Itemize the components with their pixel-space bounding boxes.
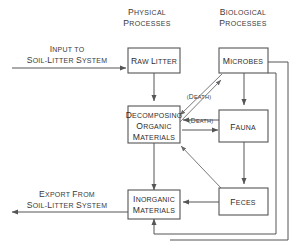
export-label-line2: SOIL-LITTER SYSTEM <box>27 200 108 210</box>
header-biological-line2: PROCESSES <box>219 18 266 28</box>
svg-text:RAW LITTER: RAW LITTER <box>131 56 177 66</box>
diagram-canvas: PHYSICAL PROCESSES BIOLOGICAL PROCESSES … <box>0 0 296 248</box>
feces-label: FECES <box>230 197 255 207</box>
svg-text:ORGANIC: ORGANIC <box>136 121 171 131</box>
inorganic-label-line2: MATERIALS <box>133 205 175 215</box>
node-microbes[interactable]: MICROBES <box>219 48 268 73</box>
decomposing-label-line1: DECOMPOSING <box>126 110 183 120</box>
decomposing-label-line2: ORGANIC <box>136 121 171 131</box>
header-physical-line2: PROCESSES <box>123 18 170 28</box>
svg-text:FAUNA: FAUNA <box>230 122 256 132</box>
svg-text:PROCESSES: PROCESSES <box>123 18 170 28</box>
raw-litter-label: RAW LITTER <box>131 56 177 66</box>
node-raw-litter[interactable]: RAW LITTER <box>128 48 180 73</box>
svg-text:INPUT TO: INPUT TO <box>50 44 85 54</box>
svg-text:FECES: FECES <box>230 197 255 207</box>
edge-label-death-fauna: (DEATH) <box>189 117 214 124</box>
node-fauna[interactable]: FAUNA <box>219 110 268 142</box>
svg-text:MATERIALS: MATERIALS <box>133 132 175 142</box>
edge-label-death-microbes: (DEATH) <box>187 93 212 100</box>
svg-text:PHYSICAL: PHYSICAL <box>128 7 166 17</box>
export-label-line1: EXPORT FROM <box>39 189 95 199</box>
microbes-label: MICROBES <box>223 56 263 66</box>
svg-text:BIOLOGICAL: BIOLOGICAL <box>220 7 266 17</box>
header-physical-line1: PHYSICAL <box>128 7 166 17</box>
input-label-line1: INPUT TO <box>50 44 85 54</box>
soil-litter-flow-diagram: PHYSICAL PROCESSES BIOLOGICAL PROCESSES … <box>0 0 296 248</box>
svg-text:MICROBES: MICROBES <box>223 56 263 66</box>
edge-feces-to-decomposing <box>181 146 221 188</box>
header-biological-line1: BIOLOGICAL <box>220 7 266 17</box>
input-label-line2: SOIL-LITTER SYSTEM <box>27 55 108 65</box>
svg-text:SOIL-LITTER SYSTEM: SOIL-LITTER SYSTEM <box>27 200 108 210</box>
fauna-label: FAUNA <box>230 122 256 132</box>
node-inorganic-materials[interactable]: INORGANIC MATERIALS <box>128 190 180 219</box>
svg-text:EXPORT FROM: EXPORT FROM <box>39 189 95 199</box>
node-decomposing-organic-materials[interactable]: DECOMPOSING ORGANIC MATERIALS <box>126 106 183 143</box>
inorganic-label-line1: INORGANIC <box>133 194 175 204</box>
svg-text:PROCESSES: PROCESSES <box>219 18 266 28</box>
svg-text:MATERIALS: MATERIALS <box>133 205 175 215</box>
column-header-physical: PHYSICAL PROCESSES <box>123 7 170 28</box>
svg-text:DECOMPOSING: DECOMPOSING <box>126 110 183 120</box>
node-feces[interactable]: FECES <box>219 188 268 215</box>
svg-text:SOIL-LITTER SYSTEM: SOIL-LITTER SYSTEM <box>27 55 108 65</box>
column-header-biological: BIOLOGICAL PROCESSES <box>219 7 266 28</box>
decomposing-label-line3: MATERIALS <box>133 132 175 142</box>
svg-text:INORGANIC: INORGANIC <box>133 194 175 204</box>
flow-label-input: INPUT TO SOIL-LITTER SYSTEM <box>27 44 108 65</box>
flow-label-export: EXPORT FROM SOIL-LITTER SYSTEM <box>27 189 108 210</box>
